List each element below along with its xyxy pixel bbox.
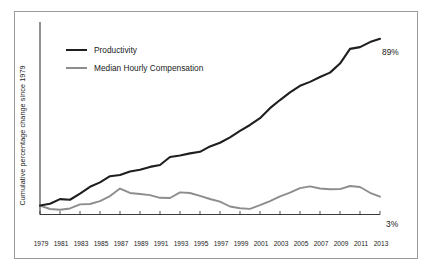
- x-axis-tick-label: 1987: [114, 240, 129, 247]
- legend-swatch-line-icon: [66, 67, 87, 69]
- x-axis-tick-label: 2011: [354, 240, 368, 247]
- y-axis-title-text: Cumulative percentage change since 1979: [18, 65, 27, 205]
- x-axis-tick-label: 1997: [214, 240, 229, 247]
- x-axis-tick-label: 1981: [54, 240, 69, 247]
- x-axis-tick-label: 1983: [74, 240, 89, 247]
- series-line-median-hourly-compensation: [40, 186, 380, 210]
- chart-figure: Cumulative percentage change since 1979 …: [0, 0, 432, 278]
- x-axis-tick-label: 2013: [374, 240, 389, 247]
- x-axis-tick-label: 1989: [134, 240, 149, 247]
- x-axis-tick-label: 2003: [274, 240, 289, 247]
- x-axis-tick-label: 1985: [94, 240, 109, 247]
- x-axis-tick-labels: 1979198119831985198719891991199319951997…: [38, 240, 398, 252]
- x-axis-tick-label: 1991: [154, 240, 169, 247]
- chart-legend: Productivity Median Hourly Compensation: [66, 42, 256, 78]
- x-axis-tick-label: 1993: [174, 240, 189, 247]
- x-axis-tick-label: 1979: [34, 240, 49, 247]
- end-label-productivity: 89%: [382, 47, 399, 57]
- y-axis-title: Cumulative percentage change since 1979: [14, 38, 30, 233]
- x-axis-tick-label: 1999: [234, 240, 249, 247]
- x-axis-tick-label: 2009: [334, 240, 349, 247]
- legend-swatch-line-icon: [66, 49, 87, 51]
- x-axis-tick-label: 2005: [294, 240, 309, 247]
- x-axis-tick-label: 1995: [194, 240, 209, 247]
- x-axis-tick-label: 2007: [314, 240, 329, 247]
- legend-label-productivity: Productivity: [94, 45, 137, 55]
- end-label-median-hourly-compensation: 3%: [386, 219, 398, 229]
- legend-item-median-hourly-compensation: Median Hourly Compensation: [66, 60, 256, 75]
- x-axis-tick-label: 2001: [254, 240, 269, 247]
- legend-item-productivity: Productivity: [66, 42, 256, 57]
- legend-label-median-hourly-compensation: Median Hourly Compensation: [94, 63, 203, 73]
